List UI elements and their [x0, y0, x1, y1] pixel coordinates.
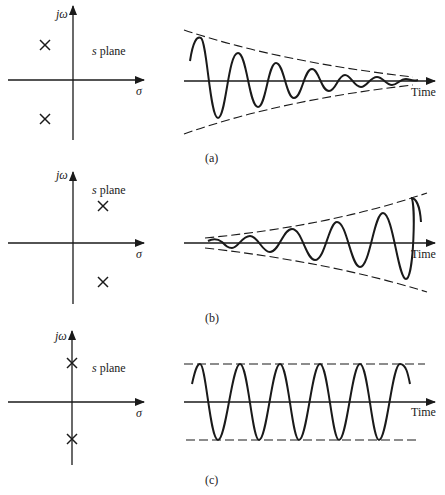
caption-c: (c)	[205, 473, 218, 487]
lower-envelope	[205, 248, 427, 292]
s-plane-title: s plane	[92, 44, 126, 58]
s-plane-a: jω σ s plane	[8, 6, 144, 140]
panel-b: jω σ s plane Time (b)	[8, 168, 436, 325]
pole-location-figure: jω σ s plane Time (a) jω σ s plane	[0, 0, 445, 495]
growing-waveform	[208, 198, 421, 279]
s-plane-title: s plane	[92, 183, 126, 197]
response-c: Time	[184, 364, 436, 440]
jw-label: jω	[54, 168, 68, 182]
decaying-waveform	[190, 38, 418, 118]
s-plane-c: jω σ s plane	[8, 329, 144, 465]
s-plane-title: s plane	[92, 361, 126, 375]
time-label: Time	[411, 247, 436, 261]
plane-word: plane	[97, 361, 126, 375]
upper-envelope	[184, 30, 413, 77]
sigma-label: σ	[136, 247, 143, 261]
response-a: Time	[184, 30, 436, 134]
caption-a: (a)	[205, 151, 218, 165]
sigma-label: σ	[136, 406, 143, 420]
pole-marker-icon	[40, 114, 50, 124]
panel-c: jω σ s plane Time (c)	[8, 329, 436, 487]
plane-word: plane	[97, 44, 126, 58]
s-plane-b: jω σ s plane	[8, 168, 144, 304]
panel-a: jω σ s plane Time (a)	[8, 6, 436, 165]
upper-envelope	[205, 193, 427, 238]
response-b: Time	[184, 193, 436, 292]
pole-marker-icon	[98, 277, 108, 287]
sigma-label: σ	[136, 84, 143, 98]
jw-label: jω	[54, 7, 68, 21]
caption-b: (b)	[205, 311, 219, 325]
time-label: Time	[411, 85, 436, 99]
pole-marker-icon	[40, 40, 50, 50]
pole-marker-icon	[98, 201, 108, 211]
jw-label: jω	[53, 329, 67, 343]
time-label: Time	[411, 405, 436, 419]
plane-word: plane	[97, 183, 126, 197]
